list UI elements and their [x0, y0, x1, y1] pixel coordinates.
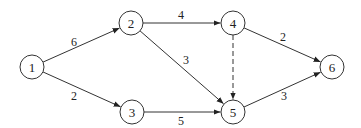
edge-label-3-5: 5: [178, 114, 184, 128]
node-1: 1: [20, 55, 44, 79]
node-label: 3: [129, 105, 136, 120]
edge-label-4-6: 2: [280, 30, 286, 44]
edge-2-5: [140, 31, 224, 104]
node-2: 2: [119, 11, 143, 35]
node-label: 4: [230, 16, 237, 31]
edge-1-2: [43, 28, 120, 62]
node-label: 1: [29, 60, 36, 75]
edges-group: [43, 23, 321, 112]
node-label: 5: [230, 105, 237, 120]
edge-label-2-5: 3: [183, 53, 189, 67]
network-diagram: 6243523 123456: [0, 0, 361, 128]
edge-label-2-4: 4: [178, 8, 184, 22]
edge-labels-group: 6243523: [71, 8, 287, 128]
edge-label-1-2: 6: [71, 35, 77, 49]
edge-1-3: [43, 72, 121, 107]
edge-label-5-6: 3: [281, 89, 287, 103]
node-5: 5: [221, 100, 245, 124]
node-4: 4: [221, 11, 245, 35]
node-label: 2: [128, 16, 135, 31]
node-label: 6: [329, 60, 336, 75]
node-6: 6: [320, 55, 344, 79]
node-3: 3: [120, 100, 144, 124]
edge-label-1-3: 2: [71, 89, 77, 103]
